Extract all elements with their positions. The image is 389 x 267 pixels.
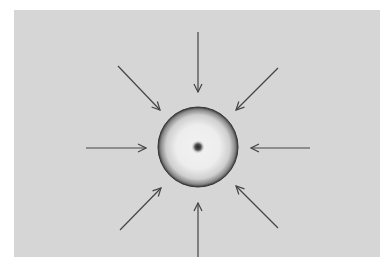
sphere-compression-diagram xyxy=(0,0,389,267)
arrow-bottom-left-icon xyxy=(120,188,161,230)
arrow-top-right-icon xyxy=(236,68,278,110)
sphere-center-dot xyxy=(191,140,205,154)
arrow-top-left-icon xyxy=(118,66,160,110)
arrow-bottom-right-icon xyxy=(236,186,278,228)
